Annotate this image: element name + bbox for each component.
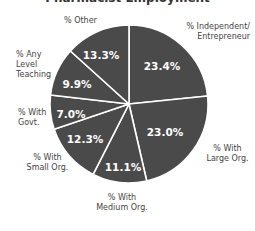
category-label-medium: % With Medium Org. [92, 193, 152, 213]
category-label-govt: % With Govt. [18, 108, 58, 128]
category-label-other: % Other [64, 16, 114, 26]
category-label-small: % With Small Org. [20, 153, 75, 173]
value-label-independent: 23.4% [144, 60, 180, 72]
category-label-teaching: % Any Level Teaching [16, 50, 56, 80]
value-label-small: 12.3% [67, 133, 103, 145]
value-label-other: 13.3% [83, 49, 119, 61]
value-label-teaching: 9.9% [62, 78, 91, 90]
value-label-govt: 7.0% [56, 108, 85, 120]
category-label-independent: % Independent/ Entrepreneur [172, 22, 250, 42]
category-label-large: % With Large Org. [200, 144, 255, 164]
value-label-large: 23.0% [147, 126, 183, 138]
value-label-medium: 11.1% [105, 161, 141, 173]
